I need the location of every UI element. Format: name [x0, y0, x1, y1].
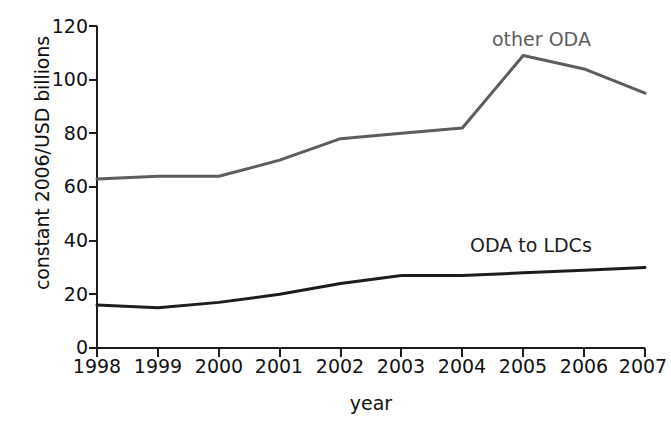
data-series-lines — [97, 56, 645, 308]
series-line-oda-to-ldcs — [97, 268, 645, 308]
series-line-other-oda — [97, 56, 645, 179]
